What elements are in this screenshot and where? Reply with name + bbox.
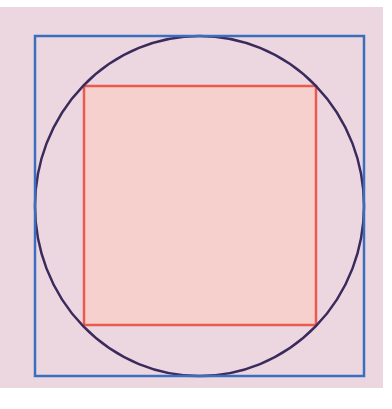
inner-square bbox=[84, 86, 316, 325]
diagram-canvas bbox=[0, 0, 392, 409]
